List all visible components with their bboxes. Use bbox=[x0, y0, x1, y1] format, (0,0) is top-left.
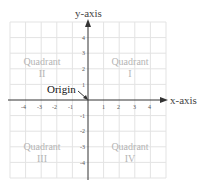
svg-text:-3: -3 bbox=[80, 144, 85, 150]
svg-text:Quadrant: Quadrant bbox=[23, 56, 60, 67]
y-axis-arrow-icon bbox=[85, 19, 91, 27]
svg-text:-4: -4 bbox=[21, 104, 26, 110]
x-tick-labels: -4 -3 -2 -1 1 2 3 4 bbox=[21, 104, 151, 110]
coordinate-plane: y-axis x-axis Origin -4 -3 -2 -1 1 2 3 4… bbox=[0, 0, 202, 191]
svg-text:I: I bbox=[128, 68, 131, 79]
x-axis-arrow-icon bbox=[160, 97, 168, 103]
svg-text:4: 4 bbox=[82, 35, 85, 41]
quadrant-iii-label: Quadrant III bbox=[23, 141, 60, 164]
svg-text:-1: -1 bbox=[80, 113, 85, 119]
svg-text:Quadrant: Quadrant bbox=[111, 56, 148, 67]
svg-text:2: 2 bbox=[82, 66, 85, 72]
svg-text:3: 3 bbox=[133, 104, 136, 110]
svg-text:1: 1 bbox=[82, 82, 85, 88]
svg-text:-1: -1 bbox=[68, 104, 73, 110]
svg-text:-2: -2 bbox=[52, 104, 57, 110]
quadrant-ii-label: Quadrant II bbox=[23, 56, 60, 79]
svg-text:-2: -2 bbox=[80, 128, 85, 134]
y-axis-label: y-axis bbox=[75, 7, 102, 19]
svg-text:II: II bbox=[39, 68, 46, 79]
svg-text:IV: IV bbox=[125, 153, 136, 164]
svg-text:-4: -4 bbox=[80, 160, 85, 166]
origin-label: Origin bbox=[47, 83, 76, 95]
svg-text:4: 4 bbox=[148, 104, 151, 110]
quadrant-i-label: Quadrant I bbox=[111, 56, 148, 79]
x-axis-label: x-axis bbox=[170, 94, 197, 106]
svg-text:2: 2 bbox=[117, 104, 120, 110]
svg-text:-3: -3 bbox=[37, 104, 42, 110]
quadrant-iv-label: Quadrant IV bbox=[111, 141, 148, 164]
svg-text:III: III bbox=[37, 153, 47, 164]
svg-text:Quadrant: Quadrant bbox=[23, 141, 60, 152]
svg-text:Quadrant: Quadrant bbox=[111, 141, 148, 152]
svg-text:1: 1 bbox=[102, 104, 105, 110]
svg-text:3: 3 bbox=[82, 50, 85, 56]
